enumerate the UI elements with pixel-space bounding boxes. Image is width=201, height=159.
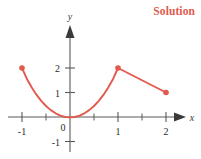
- graph-canvas: -1 1 2 2 1 -1 0 x y: [0, 0, 201, 159]
- y-tick-label-2: 2: [55, 63, 60, 74]
- solution-figure: Solution -1 1 2 2 1 -1: [0, 0, 201, 159]
- y-tick-label-neg1: -1: [52, 137, 60, 148]
- x-axis-label: x: [189, 112, 195, 123]
- x-axis-arrowhead: [174, 113, 186, 122]
- point-peak-endpoint: [115, 65, 121, 71]
- y-axis-arrowhead: [66, 25, 75, 38]
- y-axis-label: y: [67, 11, 73, 22]
- solution-label: Solution: [153, 6, 195, 18]
- linear-branch: [118, 68, 166, 93]
- x-tick-label-1: 1: [116, 126, 121, 137]
- x-tick-label-neg1: -1: [18, 126, 26, 137]
- y-tick-label-1: 1: [55, 88, 60, 99]
- point-right-endpoint: [163, 90, 169, 96]
- point-left-endpoint: [19, 65, 25, 71]
- origin-label: 0: [61, 122, 66, 133]
- x-tick-label-2: 2: [164, 126, 169, 137]
